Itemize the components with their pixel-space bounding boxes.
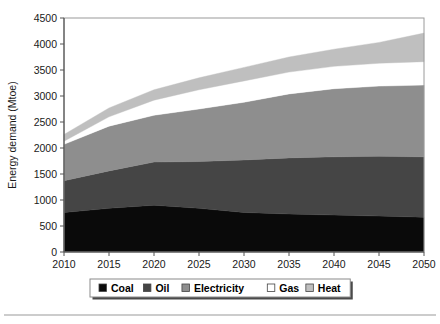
y-tick-label: 1000 [34, 194, 58, 206]
x-tick-label: 2045 [367, 258, 391, 270]
x-tick-label: 2025 [187, 258, 211, 270]
y-tick-label: 3000 [34, 90, 58, 102]
y-axis-label: Energy demand (Mtoe) [6, 81, 18, 188]
x-tick-label: 2050 [412, 258, 436, 270]
y-tick-label: 3500 [34, 64, 58, 76]
y-tick-label: 2000 [34, 142, 58, 154]
stacked-area-chart: 0500100015002000250030003500400045002010… [0, 0, 440, 324]
legend-label-electricity: Electricity [194, 282, 244, 294]
y-tick-label: 500 [39, 220, 57, 232]
legend-label-oil: Oil [155, 282, 169, 294]
y-tick-label: 1500 [34, 168, 58, 180]
x-tick-label: 2040 [322, 258, 346, 270]
legend-swatch-gas [267, 284, 275, 292]
x-tick-label: 2030 [232, 258, 256, 270]
x-tick-label: 2020 [142, 258, 166, 270]
y-tick-label: 4000 [34, 38, 58, 50]
legend-label-heat: Heat [318, 282, 341, 294]
y-tick-label: 0 [51, 246, 57, 258]
legend-swatch-electricity [182, 284, 190, 292]
chart-figure: 0500100015002000250030003500400045002010… [0, 0, 440, 324]
legend-swatch-coal [99, 284, 107, 292]
x-tick-label: 2010 [52, 258, 76, 270]
y-tick-label: 2500 [34, 116, 58, 128]
y-tick-label: 4500 [34, 12, 58, 24]
legend-label-coal: Coal [111, 282, 134, 294]
legend-label-gas: Gas [279, 282, 299, 294]
legend-swatch-oil [143, 284, 151, 292]
x-tick-label: 2035 [277, 258, 301, 270]
legend-swatch-heat [306, 284, 314, 292]
x-tick-label: 2015 [97, 258, 121, 270]
